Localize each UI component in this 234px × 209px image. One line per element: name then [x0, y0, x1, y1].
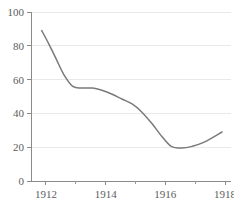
axis-group	[31, 12, 231, 181]
y-tick-group	[27, 12, 31, 181]
x-tick-label-1918: 1918	[214, 188, 234, 200]
y-tick-label-40: 40	[13, 107, 25, 119]
chart-canvas: 020406080100 1912191419161918	[0, 0, 234, 209]
x-tick-label-1916: 1916	[154, 188, 177, 200]
x-tick-label-1912: 1912	[35, 188, 57, 200]
y-tick-label-0: 0	[19, 175, 25, 187]
y-tick-label-20: 20	[13, 141, 25, 153]
series-line-1	[42, 31, 222, 148]
x-tick-label-1914: 1914	[95, 188, 118, 200]
data-series-group	[42, 31, 222, 148]
y-tick-label-100: 100	[8, 6, 25, 18]
y-tick-label-60: 60	[13, 74, 25, 86]
x-tick-label-group: 1912191419161918	[35, 188, 234, 200]
gridline-group	[31, 12, 231, 181]
y-tick-label-80: 80	[13, 40, 25, 52]
y-tick-label-group: 020406080100	[8, 6, 25, 187]
x-tick-group	[46, 181, 225, 185]
line-chart: 020406080100 1912191419161918	[0, 0, 234, 209]
